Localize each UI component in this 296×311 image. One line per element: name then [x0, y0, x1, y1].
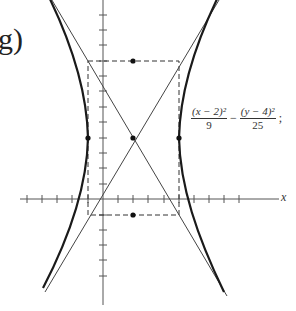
equation-trailing: ;	[279, 111, 282, 126]
asymptotes	[43, 0, 227, 296]
x-axis	[20, 195, 279, 203]
equation-term1: (x − 2)² 9	[191, 106, 227, 131]
term2-denominator: 25	[252, 119, 263, 132]
co-vertex-bottom	[130, 212, 135, 217]
minus-operator: −	[230, 111, 237, 126]
center-point	[130, 135, 135, 140]
hyperbola-curve	[43, 0, 224, 292]
vertex-left	[85, 135, 90, 140]
co-vertex-top	[130, 58, 135, 63]
hyperbola-diagram	[0, 0, 296, 311]
term2-numerator: (y − 4)²	[240, 106, 276, 119]
term1-numerator: (x − 2)²	[191, 106, 227, 119]
hyperbola-equation: (x − 2)² 9 − (y − 4)² 25 ;	[191, 106, 282, 131]
figure-label: g)	[0, 22, 23, 56]
term1-denominator: 9	[206, 119, 212, 132]
vertex-right	[176, 135, 181, 140]
y-axis	[99, 0, 107, 305]
equation-term2: (y − 4)² 25	[240, 106, 276, 131]
x-axis-label: x	[281, 190, 286, 205]
